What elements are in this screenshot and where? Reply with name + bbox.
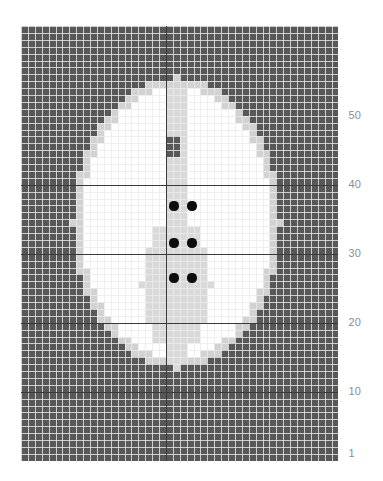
marked-voxel-dot[interactable] [169,238,178,247]
marked-voxel-dot[interactable] [187,273,196,282]
heatmap-cell [332,454,339,461]
y-axis-tick: 20 [348,317,361,328]
marked-voxel-dot[interactable] [169,273,178,282]
marked-voxel-dot[interactable] [187,201,196,210]
y-axis-tick: 50 [348,110,361,121]
y-axis-tick: 30 [348,248,361,259]
heatmap-grid[interactable] [21,26,338,461]
y-axis-tick: 1 [348,448,354,459]
y-axis-tick: 10 [348,386,361,397]
heatmap-cells [21,26,338,461]
marked-voxel-dot[interactable] [187,238,196,247]
figure-canvas: 50403020101 [0,0,383,481]
y-axis-tick: 40 [348,179,361,190]
marked-voxel-dot[interactable] [169,201,178,210]
